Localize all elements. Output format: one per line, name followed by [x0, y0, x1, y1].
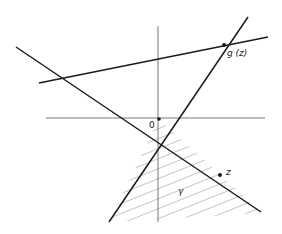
cone-diagram: 0 g (z) z γ [0, 0, 282, 234]
g-of-z-point [222, 43, 226, 47]
ray-upper-left [16, 47, 261, 212]
g-of-z-label: g (z) [227, 49, 247, 58]
diagram-canvas [0, 0, 282, 234]
origin-point [157, 117, 161, 121]
cone-label: γ [178, 187, 183, 196]
z-point [218, 173, 222, 177]
slanted-line [39, 37, 268, 83]
origin-label: 0 [149, 121, 155, 130]
cone-hatching [80, 60, 280, 234]
z-label: z [226, 168, 231, 177]
